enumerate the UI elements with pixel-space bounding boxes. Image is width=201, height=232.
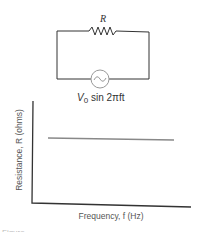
chart-axes [32,101,191,207]
circuit-diagram [57,27,149,88]
resistor-icon [89,27,116,35]
resistance-line [48,138,174,140]
source-label: V0 sin 2πft [77,92,125,105]
x-axis-label: Frequency, f (Hz) [78,211,143,221]
resistor-label: R [99,13,106,24]
figure-caption: Figure [2,228,25,232]
y-axis-label: Resistance, R (ohms) [14,109,24,191]
figure-canvas: R V0 sin 2πft Resistance, R (ohms) Frequ… [0,0,201,232]
